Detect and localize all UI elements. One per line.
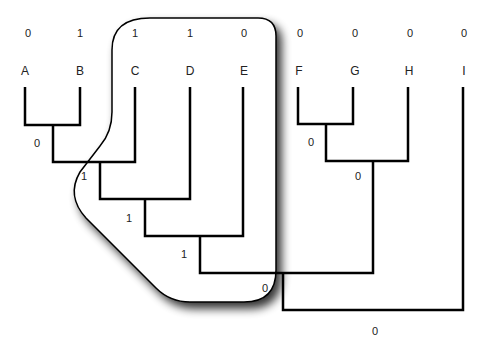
taxon-E: E: [240, 64, 248, 78]
taxon-D: D: [186, 64, 195, 78]
taxon-I: I: [462, 64, 465, 78]
taxon-G: G: [350, 64, 359, 78]
phylogenetic-tree-diagram: 0 1 1 1 0 0 0 0 0 A B C D E F G H I 0 1 …: [0, 0, 484, 355]
tip-state-G: 0: [352, 27, 358, 39]
taxon-A: A: [21, 64, 29, 78]
tip-state-B: 1: [77, 27, 83, 39]
tip-states: 0 1 1 1 0 0 0 0 0: [25, 27, 467, 39]
taxon-F: F: [295, 64, 302, 78]
node-state-FG: 0: [308, 136, 314, 148]
tip-state-F: 0: [297, 27, 303, 39]
taxon-B: B: [76, 64, 84, 78]
tip-state-I: 0: [461, 27, 467, 39]
tip-state-E: 0: [241, 27, 247, 39]
taxon-H: H: [405, 64, 414, 78]
highlight-clade-outline: [74, 18, 276, 302]
tip-state-A: 0: [25, 27, 31, 39]
node-state-root: 0: [372, 325, 378, 337]
node-state-AB: 0: [34, 137, 40, 149]
node-state-ABCD: 1: [126, 212, 132, 224]
branch-F-G: [298, 87, 353, 124]
tip-state-C: 1: [132, 27, 138, 39]
tip-state-H: 0: [407, 27, 413, 39]
node-state-ABCDE: 1: [181, 248, 187, 260]
taxon-labels: A B C D E F G H I: [21, 64, 466, 78]
taxon-C: C: [131, 64, 140, 78]
tip-state-D: 1: [187, 27, 193, 39]
node-state-FGH: 0: [355, 170, 361, 182]
branch-A-B: [25, 87, 80, 125]
node-state-ABCDEFGH: 0: [262, 282, 268, 294]
node-state-ABC: 1: [81, 170, 87, 182]
